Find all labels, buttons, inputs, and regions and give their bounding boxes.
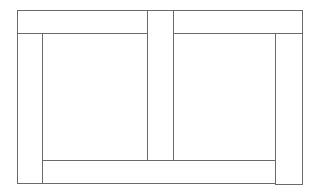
left-strip <box>18 34 43 184</box>
right-inner-rect <box>174 34 276 161</box>
right-strip <box>276 34 303 185</box>
top-right-bar <box>174 11 303 34</box>
top-left-bar <box>18 11 148 34</box>
left-inner-rect <box>43 34 148 161</box>
tiling-diagram <box>0 0 316 194</box>
center-vertical-strip <box>148 11 174 161</box>
bottom-bar <box>43 161 276 184</box>
